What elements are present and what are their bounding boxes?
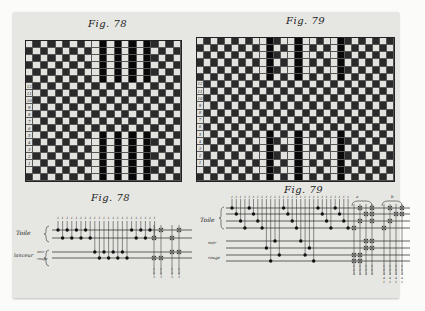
svg-text:1: 1 [274, 195, 276, 199]
svg-text:1: 1 [261, 195, 263, 199]
svg-text:1: 1 [308, 195, 310, 199]
svg-text:1: 1 [300, 195, 302, 199]
label-noir-79: noir [208, 240, 217, 245]
svg-text:1: 1 [291, 195, 293, 199]
svg-text:1: 1 [326, 195, 328, 199]
label-rouge-79: rouge [208, 255, 220, 260]
svg-text:1: 1 [265, 195, 267, 199]
label-toile-79: Toile [200, 216, 215, 223]
svg-text:1: 1 [321, 195, 323, 199]
svg-text:3: 3 [359, 272, 361, 276]
svg-text:1: 1 [270, 195, 272, 199]
svg-text:1: 1 [287, 195, 289, 199]
svg-text:3: 3 [353, 272, 355, 276]
svg-text:1: 1 [240, 195, 242, 199]
svg-text:1: 1 [278, 195, 280, 199]
svg-text:1: 1 [304, 195, 306, 199]
svg-text:1: 1 [395, 280, 397, 284]
group-label-b: b [391, 194, 394, 199]
svg-text:1: 1 [296, 195, 298, 199]
svg-text:1: 1 [235, 195, 237, 199]
svg-text:1: 1 [317, 195, 319, 199]
svg-text:1: 1 [343, 195, 345, 199]
svg-text:1: 1 [401, 280, 403, 284]
fig79-draft-diagram: Toile noir rouge a b 1111111111111111111… [0, 0, 425, 311]
group-label-a: a [356, 194, 359, 199]
svg-text:3: 3 [371, 272, 373, 276]
svg-text:1: 1 [334, 195, 336, 199]
svg-text:1: 1 [283, 195, 285, 199]
svg-text:3: 3 [365, 272, 367, 276]
svg-text:1: 1 [253, 195, 255, 199]
svg-text:1: 1 [257, 195, 259, 199]
svg-text:1: 1 [244, 195, 246, 199]
svg-text:1: 1 [389, 280, 391, 284]
svg-text:1: 1 [231, 195, 233, 199]
svg-text:1: 1 [313, 195, 315, 199]
svg-text:1: 1 [339, 195, 341, 199]
svg-text:1: 1 [383, 280, 385, 284]
svg-text:1: 1 [330, 195, 332, 199]
svg-text:1: 1 [347, 195, 349, 199]
svg-text:1: 1 [248, 195, 250, 199]
